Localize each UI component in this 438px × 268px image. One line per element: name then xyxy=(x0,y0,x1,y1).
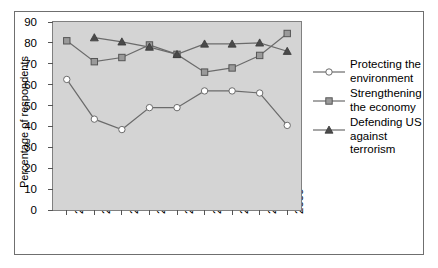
data-point-open-circle xyxy=(174,104,180,110)
legend-label: Protecting the environment xyxy=(350,58,434,85)
gray-square-marker xyxy=(312,93,346,105)
legend-label: Strengthening the economy xyxy=(350,87,434,114)
x-tick-mark xyxy=(121,210,122,215)
data-point-gray-square xyxy=(229,65,235,71)
open-circle-marker xyxy=(312,64,346,76)
data-point-gray-square xyxy=(64,38,70,44)
x-tick-mark xyxy=(232,210,233,215)
open-circle-marker xyxy=(326,69,332,75)
x-tick-mark xyxy=(259,210,260,215)
data-point-open-circle xyxy=(229,88,235,94)
data-point-open-circle xyxy=(91,116,97,122)
data-point-gray-square xyxy=(91,58,97,64)
data-point-open-circle xyxy=(64,76,70,82)
y-tick-mark xyxy=(48,147,53,148)
y-tick-mark xyxy=(48,105,53,106)
data-point-open-circle xyxy=(256,90,262,96)
x-tick-mark xyxy=(66,210,67,215)
legend-item: Protecting the environment xyxy=(312,58,434,85)
x-tick-mark xyxy=(177,210,178,215)
y-tick-mark xyxy=(48,42,53,43)
data-point-gray-square xyxy=(119,54,125,60)
x-tick-mark xyxy=(94,210,95,215)
y-tick-mark xyxy=(48,168,53,169)
series-open-circle xyxy=(64,76,291,133)
y-tick-mark xyxy=(48,84,53,85)
dark-triangle-marker xyxy=(312,122,346,134)
data-point-gray-square xyxy=(201,69,207,75)
data-point-gray-square xyxy=(284,30,290,36)
y-tick-mark xyxy=(48,126,53,127)
chart-legend: Protecting the environmentStrengthening … xyxy=(312,58,434,159)
data-point-open-circle xyxy=(284,122,290,128)
y-tick-mark xyxy=(48,210,53,211)
data-point-open-circle xyxy=(146,104,152,110)
y-tick-mark xyxy=(48,189,53,190)
data-point-gray-square xyxy=(256,52,262,58)
x-tick-mark xyxy=(149,210,150,215)
legend-item: Strengthening the economy xyxy=(312,87,434,114)
legend-label: Defending US against terrorism xyxy=(350,116,434,157)
data-point-dark-triangle xyxy=(90,34,98,41)
legend-item: Defending US against terrorism xyxy=(312,116,434,157)
y-tick-mark xyxy=(48,22,53,23)
x-tick-mark xyxy=(204,210,205,215)
y-tick-mark xyxy=(48,63,53,64)
data-point-open-circle xyxy=(119,126,125,132)
data-point-open-circle xyxy=(201,88,207,94)
x-tick-mark xyxy=(287,210,288,215)
gray-square-marker xyxy=(326,98,332,104)
